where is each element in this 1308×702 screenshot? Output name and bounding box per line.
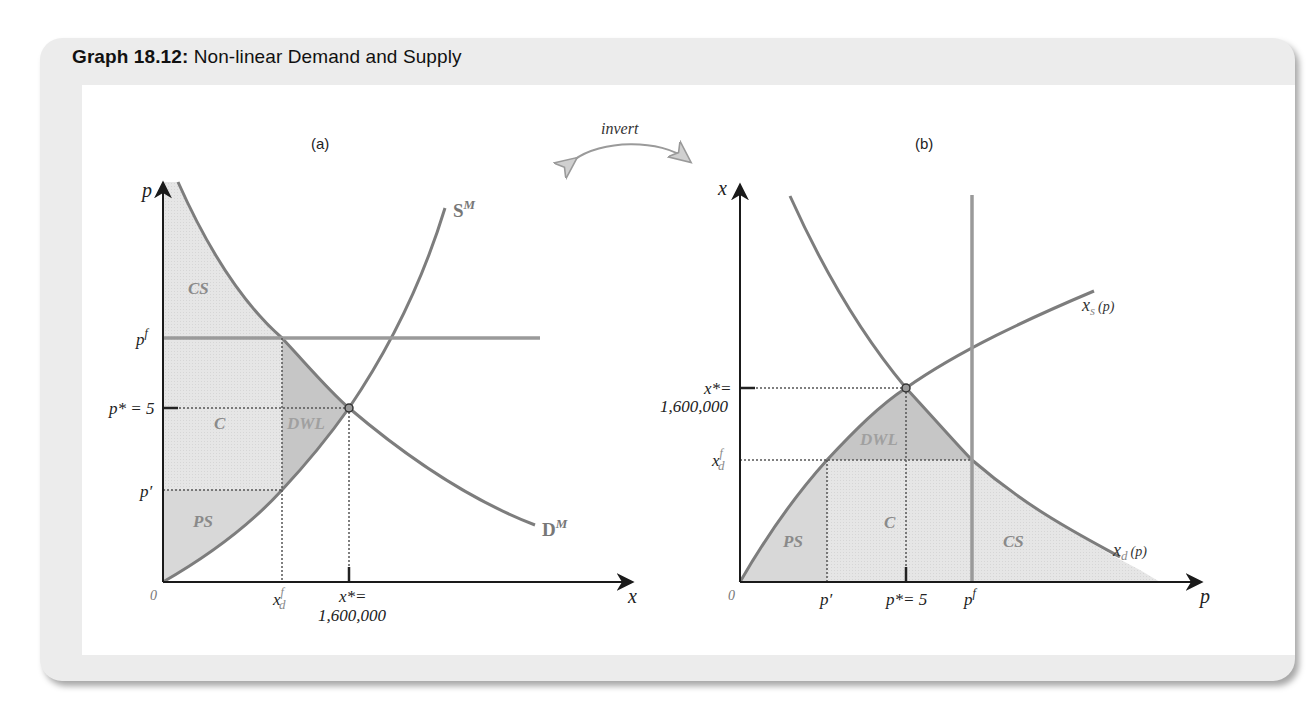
invert-curved-arrow-icon	[574, 144, 688, 160]
xstar-label-a-line1: x*=	[338, 587, 367, 606]
dwl-label-a: DWL	[286, 414, 325, 433]
c-label-a: C	[214, 414, 226, 433]
demand-label-b: xd(p)	[1112, 540, 1147, 563]
supply-label-a: SM	[453, 197, 476, 221]
dwl-label-b: DWL	[859, 430, 898, 449]
origin-label-a: 0	[150, 588, 157, 603]
ps-label-b: PS	[782, 532, 803, 551]
ps-region	[163, 490, 282, 582]
y-axis-label-a: p	[140, 179, 152, 202]
xstar-label-b-line2: 1,600,000	[660, 397, 729, 416]
pf-label-a: pf	[135, 326, 150, 349]
panel-a: (a) p x 0 pf p*	[108, 135, 637, 625]
y-axis-label-b: x	[717, 177, 727, 199]
c-region-b	[827, 460, 972, 582]
panel-b-label: (b)	[915, 135, 933, 152]
panel-b: (b) x p 0 x*= 1,600,000	[660, 135, 1210, 609]
cs-region-b	[972, 460, 1160, 582]
demand-label-a: DM	[542, 516, 568, 540]
xstar-label-a-line2: 1,600,000	[318, 606, 387, 625]
cs-label-a: CS	[188, 279, 209, 298]
pf-label-b: pf	[963, 586, 978, 609]
supply-label-b: xs(p)	[1081, 295, 1115, 318]
chart-svg: (a) p x 0 pf p*	[0, 0, 1308, 702]
pstar-label-b: p*= 5	[885, 590, 927, 609]
origin-label-b: 0	[728, 588, 735, 603]
c-label-b: C	[884, 513, 896, 532]
invert-arrow: invert	[574, 120, 688, 160]
xstar-label-b-line1: x*=	[703, 379, 732, 398]
x-axis-label-a: x	[627, 585, 637, 607]
equilibrium-point-b	[902, 384, 910, 392]
ps-region-b	[740, 460, 827, 582]
equilibrium-point-a	[345, 404, 353, 412]
pprime-label-a: p′	[139, 482, 153, 501]
invert-label: invert	[601, 120, 639, 137]
cs-region	[163, 182, 282, 338]
xdf-label-b: xfd	[711, 446, 725, 473]
pstar-label-a: p* = 5	[108, 399, 154, 418]
cs-label-b: CS	[1003, 532, 1024, 551]
pprime-label-b: p′	[819, 590, 833, 609]
dwl-region-b	[827, 388, 972, 460]
xdf-label-a: xfd	[272, 585, 286, 612]
panel-a-label: (a)	[311, 135, 329, 152]
ps-label-a: PS	[192, 512, 213, 531]
x-axis-label-b: p	[1198, 585, 1210, 608]
